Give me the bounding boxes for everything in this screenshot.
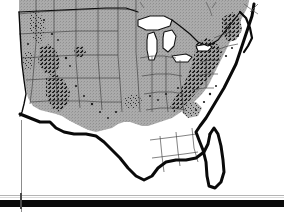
page-hairline-rule (0, 195, 284, 196)
page-registration-tick (20, 193, 22, 209)
map-figure (0, 0, 284, 212)
page-hairline-rule-secondary (0, 197, 284, 198)
us-map-graphic (0, 0, 284, 212)
page-footer-bar (0, 200, 284, 207)
